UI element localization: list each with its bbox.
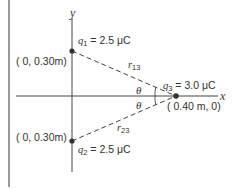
q3-coordinate: ( 0.40 m, 0) [167,101,221,112]
q1-coordinate: ( 0, 0.30m) [16,56,67,67]
theta-lower-label: θ [136,100,141,111]
theta-arc-upper [155,87,156,96]
r13-dashed-line [72,51,176,96]
r13-label: r13 [128,59,140,72]
y-axis-label: y [70,7,75,19]
theta-arc-lower [155,96,156,105]
x-axis-label: x [220,90,225,102]
q3-subscript: 3 [168,84,172,93]
r23-subscript: 23 [121,126,129,135]
q1-value: = 2.5 μC [90,34,130,46]
r23-label: r23 [117,122,129,135]
theta-upper-label: θ [136,85,141,96]
q3-label: q3 = 3.0 μC [163,80,216,93]
q3-dot [173,93,179,99]
q2-coordinate: ( 0, 0.30m) [16,132,67,143]
q1-subscript: 1 [83,39,87,48]
q2-dot [69,138,74,143]
q3-value: = 3.0 μC [175,79,215,91]
q2-value: = 2.5 μC [90,143,130,155]
q2-label: q2 = 2.5 μC [78,144,131,157]
charge-diagram [0,0,239,188]
q2-subscript: 2 [83,148,87,157]
q1-dot [69,48,74,53]
q1-label: q1 = 2.5 μC [78,35,131,48]
r13-subscript: 13 [132,63,140,72]
